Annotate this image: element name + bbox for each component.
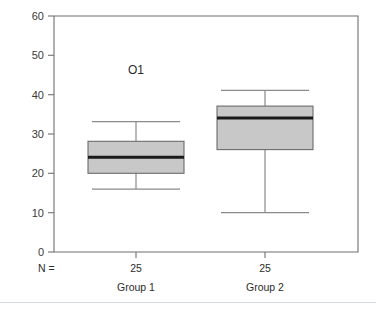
y-axis-ticks	[48, 16, 54, 252]
y-tick-label: 0	[38, 246, 44, 258]
x-category-label-group-1: Group 1	[117, 281, 155, 293]
y-tick-label: 50	[32, 49, 44, 61]
box-group-2[interactable]	[217, 90, 313, 212]
x-category-label-group-2: Group 2	[246, 281, 284, 293]
y-tick-label: 40	[32, 89, 44, 101]
x-axis-ticks	[136, 252, 265, 258]
box-iqr[interactable]	[217, 106, 313, 150]
series-title: O1	[128, 63, 144, 77]
n-value-group-2: 25	[259, 262, 271, 274]
y-tick-label: 10	[32, 207, 44, 219]
n-row-label: N =	[38, 262, 55, 274]
n-value-group-1: 25	[130, 262, 142, 274]
y-tick-label: 20	[32, 167, 44, 179]
y-tick-label: 60	[32, 10, 44, 22]
boxplot-figure: 60 50 40 30 20 10 0 O1	[0, 0, 376, 313]
y-tick-label: 30	[32, 128, 44, 140]
boxplot-canvas: 60 50 40 30 20 10 0 O1	[0, 0, 376, 313]
page-divider-rule	[0, 302, 376, 303]
y-axis-labels: 60 50 40 30 20 10 0	[32, 10, 44, 258]
box-group-1[interactable]	[88, 122, 184, 189]
